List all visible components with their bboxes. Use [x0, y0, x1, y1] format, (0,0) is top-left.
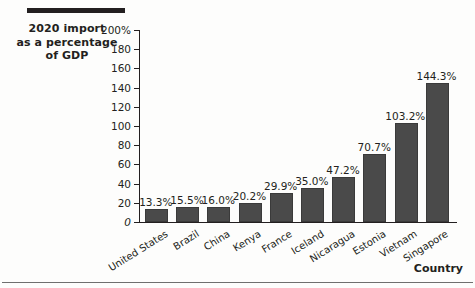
y-axis-tick-label: 60	[118, 158, 131, 170]
decorative-top-rule	[27, 8, 125, 13]
bar[interactable]: 15.5%	[176, 207, 199, 222]
decorative-bottom-rule	[2, 282, 473, 283]
y-axis-tick	[134, 68, 140, 69]
y-axis-tick-label: 160	[111, 62, 131, 74]
bar-value-label: 20.2%	[233, 190, 266, 202]
x-axis-title: Country	[414, 262, 463, 275]
x-axis-category-label-text: France	[260, 228, 294, 255]
y-axis-tick-label: 0	[124, 216, 131, 228]
y-axis-tick-label: 140	[111, 82, 131, 94]
y-axis-tick	[134, 184, 140, 185]
y-axis-tick	[134, 88, 140, 89]
bar[interactable]: 13.3%	[145, 209, 168, 222]
y-axis-tick	[134, 145, 140, 146]
bar-value-label: 13.3%	[139, 196, 172, 208]
bar-value-label: 16.0%	[202, 194, 235, 206]
y-axis-tick	[134, 164, 140, 165]
bar[interactable]: 103.2%	[395, 123, 418, 222]
bar-value-label: 144.3%	[416, 70, 456, 82]
y-axis-tick	[134, 49, 140, 50]
y-axis-tick-label: 200%	[101, 24, 131, 36]
bar[interactable]: 144.3%	[426, 83, 449, 222]
x-axis-line	[139, 222, 457, 223]
y-axis-tick-label: 180	[111, 43, 131, 55]
y-axis-tick-label: 40	[118, 178, 131, 190]
y-axis-tick	[134, 126, 140, 127]
bar-value-label: 103.2%	[385, 110, 425, 122]
bar-chart-figure: 2020 import as a percentage of GDP 200%1…	[0, 0, 475, 288]
chart-title-line-3: of GDP	[8, 49, 126, 63]
y-axis-tick	[134, 222, 140, 223]
bar[interactable]: 47.2%	[332, 177, 355, 222]
x-axis-category-label-text: Brazil	[171, 228, 200, 252]
bar-value-label: 35.0%	[295, 175, 328, 187]
x-axis-category-label-text: Kenya	[231, 228, 263, 254]
bar-value-label: 47.2%	[326, 164, 359, 176]
y-axis-tick	[134, 30, 140, 31]
bar-value-label: 70.7%	[358, 141, 391, 153]
y-axis-tick-label: 100	[111, 120, 131, 132]
bar-value-label: 29.9%	[264, 180, 297, 192]
bar[interactable]: 70.7%	[363, 154, 386, 222]
bar[interactable]: 16.0%	[207, 207, 230, 222]
y-axis-tick-label: 20	[118, 197, 131, 209]
bar[interactable]: 29.9%	[270, 193, 293, 222]
bar[interactable]: 20.2%	[239, 203, 262, 222]
x-axis-category-label-text: United States	[106, 228, 169, 273]
bar-value-label: 15.5%	[170, 194, 203, 206]
y-axis-tick-label: 80	[118, 139, 131, 151]
x-axis-category-label-text: China	[202, 228, 232, 252]
y-axis-tick-label: 120	[111, 101, 131, 113]
plot-area: 200%180160140120100806040200 13.3%15.5%1…	[139, 30, 457, 222]
chart-title-line-2: as a percentage	[8, 36, 126, 50]
y-axis-tick	[134, 107, 140, 108]
bar[interactable]: 35.0%	[301, 188, 324, 222]
